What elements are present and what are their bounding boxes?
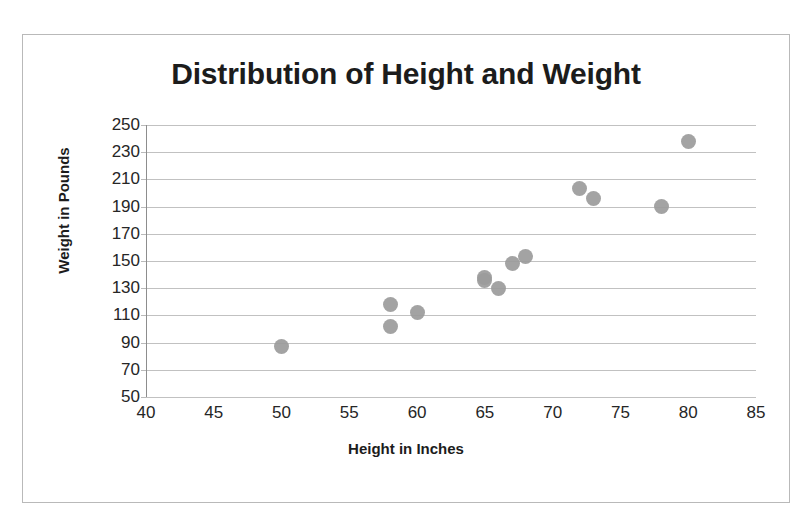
- plot-area: [146, 125, 756, 397]
- x-axis-tick-labels: 40455055606570758085: [146, 403, 756, 431]
- gridline: [146, 125, 756, 126]
- data-point: [681, 134, 696, 149]
- x-axis-tick-label: 50: [257, 403, 307, 423]
- gridline: [146, 261, 756, 262]
- y-axis-title: Weight in Pounds: [55, 111, 72, 311]
- data-point: [410, 305, 425, 320]
- data-point: [654, 199, 669, 214]
- gridline: [146, 152, 756, 153]
- x-axis-tick-label: 80: [663, 403, 713, 423]
- gridlines: [146, 125, 756, 397]
- gridline: [146, 370, 756, 371]
- data-point: [505, 256, 520, 271]
- y-axis-tick-label: 210: [80, 169, 140, 189]
- y-axis-tick-label: 90: [80, 333, 140, 353]
- x-axis-tick-label: 70: [528, 403, 578, 423]
- y-axis-tick-label: 170: [80, 224, 140, 244]
- y-axis-tick-labels: 507090110130150170190210230250: [76, 125, 140, 397]
- y-axis-tick-label: 150: [80, 251, 140, 271]
- chart-title: Distribution of Height and Weight: [23, 57, 789, 91]
- x-axis-tick-label: 45: [189, 403, 239, 423]
- data-point: [477, 273, 492, 288]
- y-axis-line: [146, 125, 147, 397]
- y-axis-tick-label: 190: [80, 197, 140, 217]
- data-point: [383, 319, 398, 334]
- y-axis-tick-label: 130: [80, 278, 140, 298]
- y-axis-tick-label: 230: [80, 142, 140, 162]
- gridline: [146, 397, 756, 398]
- data-point: [383, 297, 398, 312]
- data-point: [586, 191, 601, 206]
- gridline: [146, 343, 756, 344]
- gridline: [146, 180, 756, 181]
- y-axis-tick-label: 110: [80, 305, 140, 325]
- chart-container: Distribution of Height and Weight Weight…: [22, 34, 790, 503]
- x-axis-tick-label: 55: [324, 403, 374, 423]
- data-point: [491, 281, 506, 296]
- x-axis-tick-label: 75: [595, 403, 645, 423]
- x-axis-tick-label: 65: [460, 403, 510, 423]
- x-axis-tick-label: 85: [731, 403, 781, 423]
- x-axis-title: Height in Inches: [23, 440, 789, 457]
- x-axis-tick-label: 60: [392, 403, 442, 423]
- y-axis-tick: [141, 397, 146, 398]
- x-axis-tick-label: 40: [121, 403, 171, 423]
- gridline: [146, 234, 756, 235]
- gridline: [146, 288, 756, 289]
- y-axis-tick-label: 250: [80, 115, 140, 135]
- gridline: [146, 316, 756, 317]
- y-axis-tick-label: 70: [80, 360, 140, 380]
